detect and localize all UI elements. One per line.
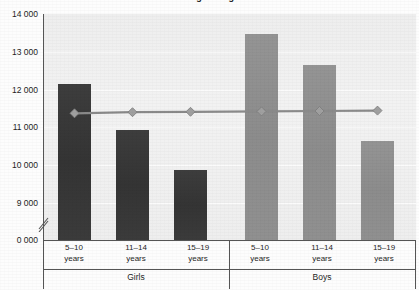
axis-break-icon [38, 216, 50, 232]
line-marker-boys-15-19 [373, 106, 382, 115]
category-range: 5–10 [43, 243, 105, 254]
y-tick-label-0000: 0 000 [0, 235, 38, 245]
chart-title: child's age and gender [0, 0, 419, 2]
y-axis-line [43, 14, 44, 241]
group-label-boys: Boys [229, 272, 415, 282]
category-unit: years [353, 254, 415, 265]
category-range: 15–19 [353, 243, 415, 254]
group-label-girls: Girls [43, 272, 229, 282]
line-marker-boys-5-10 [257, 107, 266, 116]
category-label-boys-15-19: 15–19 years [353, 243, 415, 264]
category-label-girls-11-14: 11–14 years [105, 243, 167, 264]
y-tick-label-11000: 11 000 [0, 122, 38, 132]
line-marker-girls-5-10 [70, 109, 79, 118]
category-label-band: 5–10 years 11–14 years 15–19 years 5–10 … [43, 241, 416, 289]
line-series-average [43, 14, 416, 240]
category-range: 5–10 [229, 243, 291, 254]
category-label-girls-15-19: 15–19 years [167, 243, 229, 264]
category-range: 11–14 [105, 243, 167, 254]
category-label-boys-5-10: 5–10 years [229, 243, 291, 264]
category-unit: years [229, 254, 291, 265]
y-tick-label-13000: 13 000 [0, 47, 38, 57]
y-tick-label-14000: 14 000 [0, 9, 38, 19]
line-marker-girls-11-14 [128, 108, 137, 117]
category-unit: years [291, 254, 353, 265]
line-path [75, 111, 378, 114]
category-range: 15–19 [167, 243, 229, 254]
x-axis-line [43, 240, 416, 241]
category-range: 11–14 [291, 243, 353, 254]
line-marker-girls-15-19 [186, 107, 195, 116]
y-tick-label-9000: 9 000 [0, 198, 38, 208]
category-unit: years [43, 254, 105, 265]
category-label-girls-5-10: 5–10 years [43, 243, 105, 264]
category-label-boys-11-14: 11–14 years [291, 243, 353, 264]
category-unit: years [105, 254, 167, 265]
band-mid-rule [43, 269, 416, 270]
line-marker-boys-11-14 [315, 107, 324, 116]
y-tick-label-10000: 10 000 [0, 160, 38, 170]
band-border-right [415, 241, 416, 289]
chart-screenshot: child's age and gender 14 000 13 0 [0, 0, 419, 290]
category-unit: years [167, 254, 229, 265]
y-tick-label-12000: 12 000 [0, 85, 38, 95]
